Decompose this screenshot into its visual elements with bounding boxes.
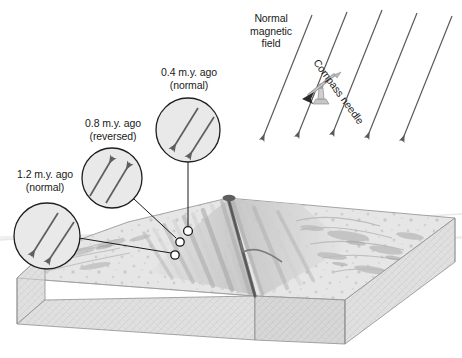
label-12-age: 1.2 m.y. ago [2,168,88,181]
magnetic-striping-figure: 1.2 m.y. ago (normal) 0.8 m.y. ago (reve… [0,0,462,358]
field-line-4 [367,13,417,138]
label-04-polarity: (normal) [146,79,232,92]
inset-circle-12 [14,203,80,269]
field-label-line2: magnetic [240,25,302,38]
label-04-age: 0.4 m.y. ago [146,66,232,79]
marker-12 [171,251,179,259]
label-08-my: 0.8 m.y. ago (reversed) [70,117,156,142]
label-04-my: 0.4 m.y. ago (normal) [146,66,232,91]
label-08-age: 0.8 m.y. ago [70,117,156,130]
field-label-line1: Normal [240,12,302,25]
right-crust-block [228,198,455,344]
label-08-polarity: (reversed) [70,130,156,143]
label-normal-magnetic-field: Normal magnetic field [240,12,302,50]
field-line-5 [402,16,452,141]
inset-circle-08 [82,148,142,208]
marker-04 [184,227,193,236]
marker-08 [176,238,184,246]
label-12-my: 1.2 m.y. ago (normal) [2,168,88,193]
field-label-line3: field [240,37,302,50]
inset-circle-04 [156,98,220,162]
label-12-polarity: (normal) [2,181,88,194]
